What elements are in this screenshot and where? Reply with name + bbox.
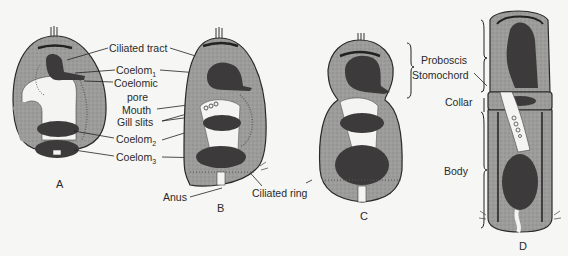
panel-label-b: B xyxy=(217,202,224,214)
panel-label-d: D xyxy=(519,240,527,252)
coelom2-a xyxy=(37,121,79,137)
adult-d xyxy=(479,11,561,232)
label-proboscis: Proboscis xyxy=(421,54,467,66)
coelom2-b xyxy=(203,115,241,131)
label-collar: Collar xyxy=(445,96,472,108)
larva-b xyxy=(184,27,268,186)
label-ciliated-ring: Ciliated ring xyxy=(252,187,307,199)
coelom3-c xyxy=(335,145,389,185)
label-coelomic-pore-2: pore xyxy=(127,91,148,103)
coelom2-c xyxy=(340,113,384,133)
label-coelom2: Coelom2 xyxy=(116,133,156,150)
diagram-canvas xyxy=(0,0,568,256)
label-coelomic-pore-1: Coelomic xyxy=(114,77,158,89)
label-stomochord: Stomochord xyxy=(412,69,469,81)
label-ciliated-tract: Ciliated tract xyxy=(109,42,167,54)
braces xyxy=(407,20,487,228)
label-body: Body xyxy=(444,165,468,177)
label-anus: Anus xyxy=(163,191,187,203)
coelom3-a xyxy=(35,140,79,158)
larva-a xyxy=(13,26,106,158)
coelom3-b xyxy=(196,146,246,168)
panel-label-a: A xyxy=(56,178,63,190)
label-coelom3: Coelom3 xyxy=(116,151,156,168)
label-gill-slits: Gill slits xyxy=(117,116,153,128)
panel-label-c: C xyxy=(360,210,368,222)
label-mouth: Mouth xyxy=(122,104,151,116)
larva-c xyxy=(320,33,403,202)
apical-tuft-a xyxy=(51,26,57,36)
coelom3-d xyxy=(502,154,538,210)
